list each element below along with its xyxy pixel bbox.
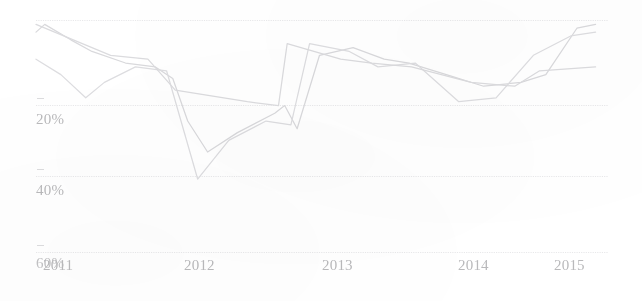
- y-axis-label-40pct: 40%: [36, 183, 64, 198]
- line-chart: 20% 40% 60% 2011 2012 2013 2014 2015: [0, 0, 642, 301]
- ytick-dash-20: [37, 98, 44, 99]
- ytick-dash-60: [37, 245, 44, 246]
- x-axis-label-2011: 2011: [43, 258, 73, 273]
- series-line-series-1: [36, 24, 596, 152]
- x-axis-label-2015: 2015: [554, 258, 585, 273]
- x-axis-label-2012: 2012: [184, 258, 215, 273]
- y-axis-label-20pct: 20%: [36, 112, 64, 127]
- x-axis-label-2014: 2014: [458, 258, 489, 273]
- series-layer: [36, 24, 596, 179]
- series-line-series-3: [36, 24, 596, 105]
- x-axis-label-2013: 2013: [322, 258, 353, 273]
- ytick-dash-40: [37, 169, 44, 170]
- chart-plot-area: [0, 0, 642, 301]
